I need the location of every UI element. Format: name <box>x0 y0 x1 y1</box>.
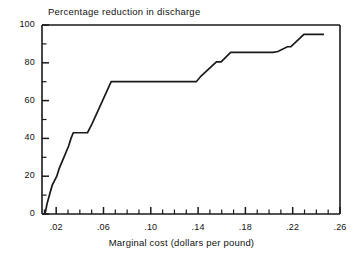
data-series-line <box>45 34 324 214</box>
y-tick-label: 20 <box>9 170 35 180</box>
x-tick-label: .02 <box>43 222 69 232</box>
x-tick-label: .10 <box>138 222 164 232</box>
x-axis-title: Marginal cost (dollars per pound) <box>0 237 363 248</box>
y-axis-ticks <box>42 25 49 214</box>
y-tick-label: 0 <box>9 208 35 218</box>
x-tick-label: .14 <box>185 222 211 232</box>
x-tick-label: .22 <box>280 222 306 232</box>
chart-figure: Percentage reduction in discharge 020406… <box>0 0 363 265</box>
chart-title: Percentage reduction in discharge <box>48 6 200 17</box>
x-axis-ticks <box>44 207 340 214</box>
x-tick-label: .06 <box>90 222 116 232</box>
x-tick-label: .26 <box>327 222 353 232</box>
plot-frame <box>42 25 340 214</box>
y-tick-label: 40 <box>9 132 35 142</box>
y-tick-label: 100 <box>9 19 35 29</box>
y-tick-label: 60 <box>9 95 35 105</box>
y-tick-label: 80 <box>9 57 35 67</box>
x-tick-label: .18 <box>232 222 258 232</box>
